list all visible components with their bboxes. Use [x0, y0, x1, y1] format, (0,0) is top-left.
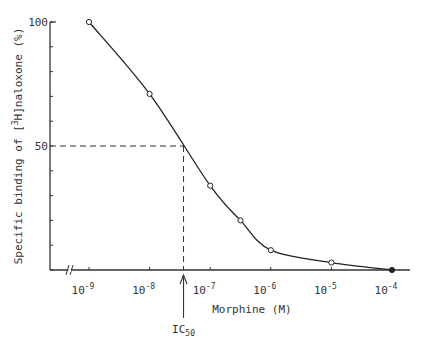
data-point [389, 267, 394, 272]
ic50-label: IC50 [172, 323, 195, 338]
data-point [329, 260, 334, 265]
x-tick-label: 10-5 [314, 282, 337, 297]
data-point [147, 91, 152, 96]
ic50-reference-lines [50, 146, 184, 270]
y-tick-label: 100 [28, 16, 48, 29]
x-tick-label: 10-9 [72, 282, 95, 297]
x-tick-label: 10-7 [193, 282, 216, 297]
x-tick-label: 10-6 [253, 282, 276, 297]
axis-break-gap [69, 268, 72, 272]
data-point [238, 218, 243, 223]
x-tick-label: 10-4 [375, 282, 398, 297]
data-point [208, 183, 213, 188]
data-point [86, 19, 91, 24]
y-tick-label: 50 [35, 140, 48, 153]
y-axis-title: Specific binding of [3H]naloxone (%) [11, 28, 25, 265]
data-point [268, 248, 273, 253]
axes [50, 22, 410, 275]
x-tick-label: 10-8 [132, 282, 155, 297]
x-axis-title: Morphine (M) [212, 303, 291, 316]
ic50-chart: 1005010-910-810-710-610-510-4Morphine (M… [0, 0, 428, 343]
